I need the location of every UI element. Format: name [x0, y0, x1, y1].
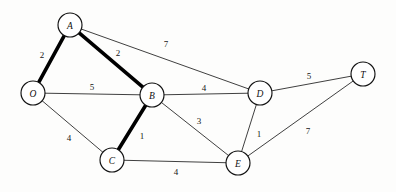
edge-o-b: [45, 93, 140, 95]
edge-weight-b-c: 1: [140, 131, 145, 141]
edge-a-b: [79, 33, 143, 87]
edge-weight-o-b: 5: [90, 82, 95, 92]
node-b[interactable]: B: [140, 83, 164, 107]
node-d[interactable]: D: [248, 81, 272, 105]
node-label-d: D: [256, 89, 264, 99]
edge-weight-d-e: 1: [257, 129, 262, 139]
edge-b-c: [118, 105, 145, 150]
edge-weights-layer: 227541434157: [40, 39, 312, 177]
edge-b-e: [161, 102, 228, 155]
edge-o-c: [42, 101, 103, 152]
node-a[interactable]: A: [58, 13, 82, 37]
edge-weight-b-d: 4: [202, 83, 207, 93]
node-label-o: O: [30, 89, 37, 99]
edge-weight-o-a: 2: [40, 50, 45, 60]
edge-weight-b-e: 3: [197, 116, 202, 126]
node-o[interactable]: O: [21, 81, 45, 105]
node-label-b: B: [149, 91, 155, 101]
edge-d-e: [242, 104, 257, 151]
edge-weight-a-b: 2: [116, 48, 121, 58]
edge-weight-e-t: 7: [306, 126, 311, 136]
node-t[interactable]: T: [351, 62, 375, 86]
edge-weight-a-d: 7: [164, 39, 169, 49]
node-e[interactable]: E: [226, 151, 250, 175]
edge-weight-o-c: 4: [67, 133, 72, 143]
edge-b-d: [164, 93, 248, 95]
node-label-t: T: [360, 70, 366, 80]
edge-weight-d-t: 5: [307, 71, 312, 81]
node-c[interactable]: C: [100, 148, 124, 172]
node-label-a: A: [66, 21, 73, 31]
edge-d-t: [272, 76, 351, 91]
edges-layer: [39, 29, 353, 163]
edge-weight-c-e: 4: [174, 167, 179, 177]
edge-c-e: [124, 160, 226, 162]
graph-diagram-canvas: 227541434157 AOBCDET: [0, 0, 396, 192]
graph-svg: 227541434157 AOBCDET: [0, 0, 396, 192]
node-label-c: C: [109, 156, 116, 166]
node-label-e: E: [234, 159, 241, 169]
